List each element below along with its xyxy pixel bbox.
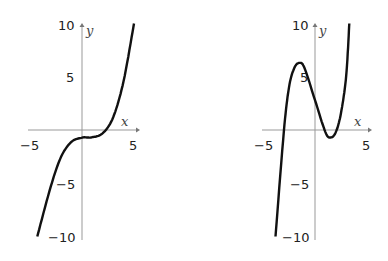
y-label: y — [318, 23, 327, 38]
x-label: x — [354, 114, 362, 129]
y-tick-m10: −10 — [282, 230, 309, 245]
x-tick-m5: −5 — [254, 138, 273, 153]
y-label: y — [85, 23, 94, 38]
right-plot: x y 10 5 −5 −10 −5 5 — [254, 18, 372, 245]
x-label: x — [121, 114, 129, 129]
x-axis-arrow-icon — [136, 128, 140, 133]
y-axis-arrow-icon — [313, 23, 318, 27]
x-tick-m5: −5 — [20, 138, 39, 153]
chart-canvas: x y 10 5 −5 −10 −5 5 x y 10 5 −5 −10 −5 … — [0, 0, 388, 261]
y-tick-m10: −10 — [48, 230, 75, 245]
y-tick-m5: −5 — [56, 177, 75, 192]
y-tick-10: 10 — [58, 18, 75, 33]
y-tick-10: 10 — [292, 18, 309, 33]
y-tick-5: 5 — [66, 70, 74, 85]
x-axis-arrow-icon — [368, 128, 372, 133]
x-tick-5: 5 — [362, 138, 370, 153]
y-tick-m5: −5 — [290, 177, 309, 192]
left-plot: x y 10 5 −5 −10 −5 5 — [20, 18, 140, 245]
x-tick-5: 5 — [129, 138, 137, 153]
y-axis-arrow-icon — [80, 23, 85, 27]
